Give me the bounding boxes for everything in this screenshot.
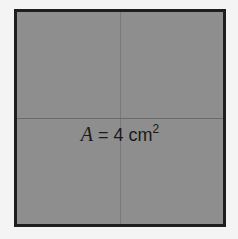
area-value: 4 bbox=[114, 125, 124, 145]
horizontal-divider bbox=[17, 118, 223, 119]
area-unit: cm bbox=[124, 125, 153, 145]
square-figure: A = 4 cm2 bbox=[14, 9, 226, 227]
area-variable: A bbox=[81, 123, 93, 145]
equals-sign: = bbox=[93, 125, 114, 145]
unit-exponent: 2 bbox=[153, 122, 160, 136]
area-label: A = 4 cm2 bbox=[17, 123, 223, 144]
